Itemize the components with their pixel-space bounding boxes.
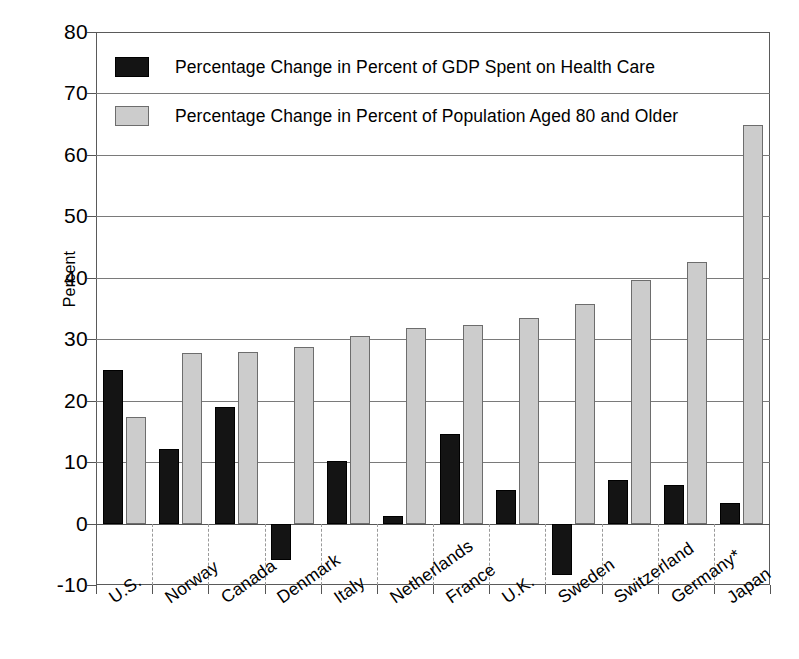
dark-swatch-icon	[115, 57, 149, 77]
bar	[631, 280, 651, 523]
bar	[103, 370, 123, 524]
x-tick-mark	[770, 585, 771, 594]
y-tick-label: 50	[46, 205, 88, 226]
bar	[720, 503, 740, 524]
bar	[271, 524, 291, 560]
bar	[383, 516, 403, 524]
y-tick-mark	[87, 93, 96, 94]
bar	[575, 304, 595, 524]
y-tick-label: 10	[46, 451, 88, 472]
y-tick-label: 20	[46, 390, 88, 411]
legend-label-population-80-plus: Percentage Change in Percent of Populati…	[175, 106, 678, 127]
bar	[687, 262, 707, 524]
bar	[215, 407, 235, 524]
bar	[664, 485, 684, 524]
bar	[406, 328, 426, 524]
y-tick-label: 0	[46, 513, 88, 534]
bar	[294, 347, 314, 523]
y-tick-label: 60	[46, 144, 88, 165]
bar	[496, 490, 516, 523]
y-tick-mark	[87, 401, 96, 402]
y-tick-mark	[87, 524, 96, 525]
y-tick-label: 80	[46, 21, 88, 42]
legend-label-health-care: Percentage Change in Percent of GDP Spen…	[175, 57, 655, 78]
bar	[238, 352, 258, 524]
y-tick-mark	[87, 32, 96, 33]
y-tick-mark	[87, 339, 96, 340]
y-tick-label: 30	[46, 328, 88, 349]
bar	[182, 353, 202, 524]
y-tick-mark	[87, 585, 96, 586]
legend-item-health-care: Percentage Change in Percent of GDP Spen…	[115, 54, 655, 80]
y-tick-label: 40	[46, 267, 88, 288]
plot-area: Percentage Change in Percent of GDP Spen…	[96, 32, 770, 585]
y-tick-mark	[87, 462, 96, 463]
y-axis-tick-labels: 80706050403020100-10	[38, 0, 88, 659]
bar	[350, 336, 370, 523]
bar	[159, 449, 179, 523]
bar-group	[714, 32, 770, 585]
bar-chart: Percent 80706050403020100-10 Percentage …	[0, 0, 799, 659]
y-tick-mark	[87, 278, 96, 279]
bar	[327, 461, 347, 524]
light-swatch-icon	[115, 106, 149, 126]
bar	[440, 434, 460, 524]
y-tick-mark	[87, 155, 96, 156]
y-tick-mark	[87, 216, 96, 217]
y-tick-label: 70	[46, 82, 88, 103]
bar	[463, 325, 483, 523]
bar	[743, 125, 763, 523]
bar	[519, 318, 539, 524]
legend-item-population-80-plus: Percentage Change in Percent of Populati…	[115, 103, 678, 129]
bar	[608, 480, 628, 524]
bar	[552, 524, 572, 575]
y-tick-label: -10	[46, 574, 88, 595]
x-axis-category-labels: U.S.NorwayCanadaDenmarkItalyNetherlandsF…	[96, 585, 770, 659]
bar	[126, 417, 146, 524]
